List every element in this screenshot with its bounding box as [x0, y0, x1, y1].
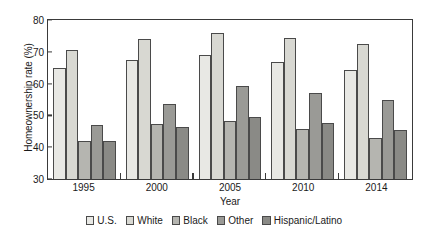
bar — [236, 86, 249, 179]
bar — [91, 125, 104, 179]
y-tick-label: 40 — [4, 142, 48, 153]
legend-swatch — [172, 216, 181, 225]
bar — [66, 50, 79, 179]
chart-figure: Homeownership rate (%) 304050607080 1995… — [0, 0, 428, 245]
bar-group — [339, 20, 412, 179]
bar — [211, 33, 224, 179]
legend-label: Black — [183, 215, 207, 226]
bar-group — [48, 20, 121, 179]
y-tick-label: 60 — [4, 78, 48, 89]
y-axis-title: Homeownership rate (%) — [23, 13, 34, 183]
bar — [394, 130, 407, 179]
bar — [126, 60, 139, 179]
x-axis-title: Year — [47, 196, 413, 207]
bar — [138, 39, 151, 179]
bar-group — [194, 20, 267, 179]
bar — [357, 44, 370, 179]
legend-item[interactable]: Black — [172, 215, 208, 226]
bar — [369, 138, 382, 179]
plot-area: 304050607080 — [47, 19, 413, 180]
x-axis-tick-labels: 19952000200520102014 — [47, 182, 413, 193]
legend-item[interactable]: White — [126, 215, 163, 226]
bar — [176, 127, 189, 179]
legend-swatch — [86, 216, 95, 225]
legend-label: Other — [228, 215, 253, 226]
bar — [271, 62, 284, 179]
legend-label: White — [137, 215, 163, 226]
y-tick-label: 70 — [4, 46, 48, 57]
bar — [53, 68, 66, 179]
legend-swatch — [126, 216, 135, 225]
bar — [309, 93, 322, 179]
legend-label: Hispanic/Latino — [274, 215, 342, 226]
chart-legend: U.S.WhiteBlackOtherHispanic/Latino — [0, 215, 428, 226]
x-tick-label: 1995 — [47, 182, 120, 193]
bar — [344, 70, 357, 179]
y-tick-label: 50 — [4, 110, 48, 121]
bar-group — [121, 20, 194, 179]
legend-item[interactable]: U.S. — [86, 215, 117, 226]
x-tick-label: 2005 — [193, 182, 266, 193]
legend-swatch — [217, 216, 226, 225]
bar — [322, 123, 335, 179]
bar — [296, 129, 309, 179]
bar — [78, 141, 91, 179]
bar — [151, 124, 164, 179]
y-tick-label: 30 — [4, 174, 48, 185]
bar — [284, 38, 297, 179]
bar — [163, 104, 176, 179]
x-tick-label: 2000 — [120, 182, 193, 193]
bar-group — [266, 20, 339, 179]
bar — [199, 55, 212, 179]
x-tick-label: 2014 — [340, 182, 413, 193]
legend-label: U.S. — [97, 215, 116, 226]
bar — [382, 100, 395, 179]
legend-swatch — [262, 216, 271, 225]
legend-item[interactable]: Hispanic/Latino — [262, 215, 342, 226]
legend-item[interactable]: Other — [217, 215, 254, 226]
y-tick-label: 80 — [4, 15, 48, 26]
bar — [224, 121, 237, 179]
x-tick-label: 2010 — [267, 182, 340, 193]
bar — [103, 141, 116, 179]
bar-groups — [48, 20, 412, 179]
bar — [249, 117, 262, 179]
